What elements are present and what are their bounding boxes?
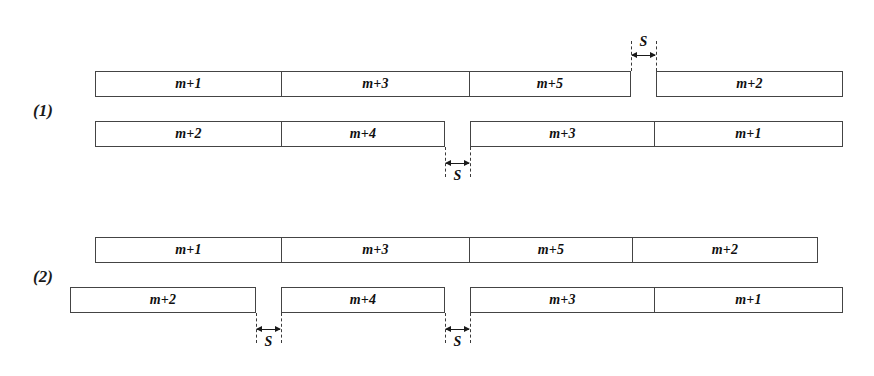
segment-label: m+3	[362, 243, 388, 257]
segment-cell: m+3	[470, 287, 655, 313]
segment-label: m+2	[175, 127, 201, 141]
group-label: (1)	[33, 101, 53, 121]
segment-label: m+1	[735, 127, 761, 141]
segment-cell: m+1	[655, 287, 843, 313]
segment-cell: m+4	[281, 287, 445, 313]
gap-arrow-head-right	[464, 326, 470, 332]
segment-label: m+1	[735, 293, 761, 307]
segment-cell: m+2	[633, 237, 818, 263]
segment-label: m+3	[549, 127, 575, 141]
segment-label: m+5	[537, 77, 563, 91]
gap-dimension-annotation: S	[631, 41, 656, 71]
segment-label: m+3	[549, 293, 575, 307]
segment-cell: m+4	[282, 121, 445, 147]
group-label: (2)	[33, 267, 53, 287]
gap-arrow-head-left	[256, 326, 262, 332]
gap-arrow-head-right	[464, 160, 470, 166]
segment-label: m+2	[736, 77, 762, 91]
segment-label: m+5	[538, 243, 564, 257]
gap-size-label: S	[621, 34, 666, 50]
segment-cell: m+3	[282, 237, 470, 263]
gap-arrow-head-right	[650, 52, 656, 58]
segment-label: m+4	[350, 127, 376, 141]
segment-label: m+2	[150, 293, 176, 307]
segment-cell: m+3	[282, 71, 470, 97]
gap-size-label: S	[435, 334, 480, 350]
segment-cell: m+2	[70, 287, 256, 313]
gap-dimension-annotation: S	[445, 147, 470, 177]
gap-size-label: S	[246, 334, 291, 350]
segment-label: m+4	[350, 293, 376, 307]
segment-cell: m+3	[470, 121, 655, 147]
segment-label: m+1	[175, 243, 201, 257]
segment-label: m+2	[712, 243, 738, 257]
gap-arrow-head-left	[445, 326, 451, 332]
figure-canvas: (1)m+1m+3m+5m+2Sm+2m+4m+3m+1S(2)m+1m+3m+…	[0, 0, 874, 376]
gap-dimension-annotation: S	[256, 313, 281, 343]
segment-cell: m+1	[95, 71, 282, 97]
segment-label: m+1	[175, 77, 201, 91]
gap-size-label: S	[435, 168, 480, 184]
gap-arrow-head-right	[275, 326, 281, 332]
segment-cell: m+2	[656, 71, 843, 97]
segment-cell: m+5	[470, 71, 631, 97]
gap-arrow-head-left	[445, 160, 451, 166]
segment-cell: m+1	[655, 121, 843, 147]
segment-label: m+3	[362, 77, 388, 91]
segment-cell: m+5	[470, 237, 633, 263]
segment-cell: m+1	[95, 237, 282, 263]
segment-cell: m+2	[95, 121, 282, 147]
gap-dimension-annotation: S	[445, 313, 470, 343]
gap-arrow-head-left	[631, 52, 637, 58]
